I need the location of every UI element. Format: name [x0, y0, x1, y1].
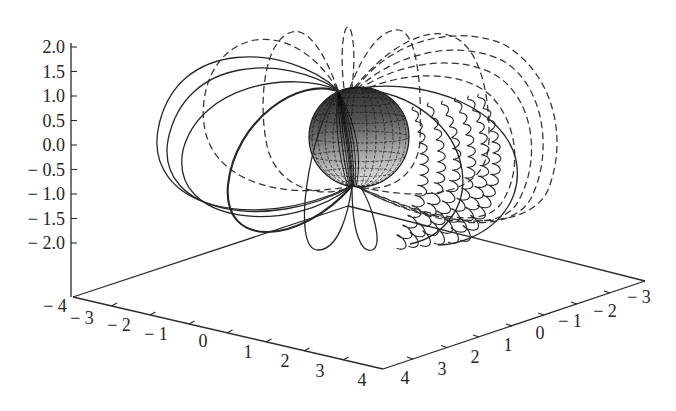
- x-tick-label: 2: [281, 351, 290, 371]
- dashed-curve: [342, 27, 354, 88]
- x-tick-label: − 2: [107, 315, 131, 335]
- x-axis: − 4 − 3 − 2 − 1 0 1 2 3 4: [43, 296, 366, 390]
- floor-back-right-edge: [348, 206, 645, 281]
- y-tick-label: 4: [401, 368, 410, 388]
- sphere: [309, 87, 409, 187]
- wavy-helical-curves: [396, 94, 500, 249]
- z-tick-label: − 2.0: [28, 233, 65, 253]
- z-axis: 2.0 1.5 1.0 0.5 0.0 − 0.5 − 1.0 − 1.5 − …: [28, 37, 77, 297]
- x-tick-label: 4: [358, 370, 367, 390]
- figure-root: 2.0 1.5 1.0 0.5 0.0 − 0.5 − 1.0 − 1.5 − …: [0, 0, 676, 411]
- x-tick-label: 1: [244, 342, 253, 362]
- y-tick-label: 2: [471, 347, 480, 367]
- plot-3d: 2.0 1.5 1.0 0.5 0.0 − 0.5 − 1.0 − 1.5 − …: [0, 0, 676, 411]
- z-tick-label: 1.5: [43, 62, 66, 82]
- z-tick-label: 0.5: [43, 111, 66, 131]
- y-tick-label: − 1: [558, 311, 582, 331]
- y-tick-label: 3: [438, 359, 447, 379]
- x-tick-label: − 4: [43, 296, 67, 316]
- z-tick-label: 2.0: [43, 37, 66, 57]
- x-tick-label: 3: [316, 361, 325, 381]
- y-tick-label: − 3: [627, 287, 651, 307]
- z-tick-label: − 1.0: [28, 184, 65, 204]
- floor-back-left-edge: [73, 206, 348, 297]
- z-tick-label: − 0.5: [28, 160, 65, 180]
- z-tick-label: 1.0: [43, 86, 66, 106]
- x-tick-label: − 1: [144, 324, 168, 344]
- y-tick-label: − 2: [593, 301, 617, 321]
- x-tick-label: 0: [199, 331, 208, 351]
- y-axis-line: [383, 281, 645, 369]
- y-tick-label: 1: [504, 335, 513, 355]
- y-axis: 4 3 2 1 0 − 1 − 2 − 3: [401, 287, 651, 388]
- z-tick-label: 0.0: [43, 135, 66, 155]
- floor-box: [73, 206, 645, 369]
- y-tick-label: 0: [536, 323, 545, 343]
- x-tick-label: − 3: [70, 308, 94, 328]
- z-tick-label: − 1.5: [28, 209, 65, 229]
